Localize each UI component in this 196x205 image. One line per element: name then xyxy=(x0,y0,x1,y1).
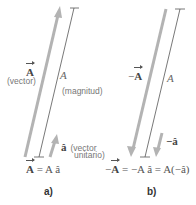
magnitude-a-caption: (magnitud) xyxy=(62,86,103,96)
panel-a-tag: a) xyxy=(44,186,53,197)
magnitude-a-symbol: A xyxy=(60,69,67,81)
unit-vector-a-caption-2: unitario) xyxy=(74,150,105,160)
panel-b-tag: b) xyxy=(147,186,156,197)
vector-diagram: A (vector) A (magnitud) â (vector unitar… xyxy=(0,0,196,205)
equation-b: −A = −A â = A(−â) xyxy=(105,163,190,175)
vector-a-caption: (vector) xyxy=(7,76,36,86)
vector-neg-a-label: −A xyxy=(128,70,142,82)
magnitude-a-line xyxy=(34,8,79,157)
equation-a: A = A â xyxy=(26,163,60,175)
unit-vector-neg-a-label: −â xyxy=(166,135,178,147)
unit-vector-a-arrow xyxy=(50,134,59,157)
unit-vector-a-symbol: â xyxy=(61,141,67,153)
unit-vector-neg-a-arrow xyxy=(153,133,162,157)
magnitude-b-symbol: A xyxy=(167,72,174,84)
